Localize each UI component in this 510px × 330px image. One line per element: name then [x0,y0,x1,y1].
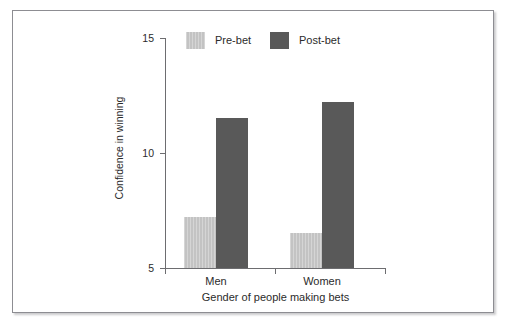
y-tick-label-15: 15 [110,33,154,44]
y-tick-mark-10 [160,153,165,154]
legend-item-post-bet: Post-bet [270,31,340,49]
bar-men-pre-bet [184,217,216,268]
y-axis-title: Confidence in winning [114,68,125,228]
bar-men-post-bet [216,118,248,268]
y-tick-label-5-wrap: 5 [110,263,154,274]
bar-women-pre-bet [290,233,322,268]
x-tick-mark-end [385,269,386,274]
y-tick-label-15-wrap: 15 [110,33,154,44]
y-axis-line [165,38,166,269]
legend-swatch-icon-post-bet [270,32,289,49]
x-tick-label-men: Men [176,276,256,287]
x-axis-title: Gender of people making bets [165,292,386,303]
bar-women-post-bet [322,102,354,268]
legend-swatch-icon-pre-bet [186,32,205,49]
y-tick-mark-15 [160,38,165,39]
x-tick-label-women: Women [282,276,362,287]
x-tick-mark-start [165,269,166,274]
plot-area: 15 10 5 Men Women Pre-bet Post [0,0,510,330]
chart-figure: 15 10 5 Men Women Pre-bet Post [0,0,510,330]
legend-label-pre-bet: Pre-bet [215,35,251,46]
legend-label-post-bet: Post-bet [299,35,340,46]
legend-item-pre-bet: Pre-bet [186,31,251,49]
x-tick-mark-middle [275,269,276,274]
y-tick-label-5: 5 [110,263,154,274]
